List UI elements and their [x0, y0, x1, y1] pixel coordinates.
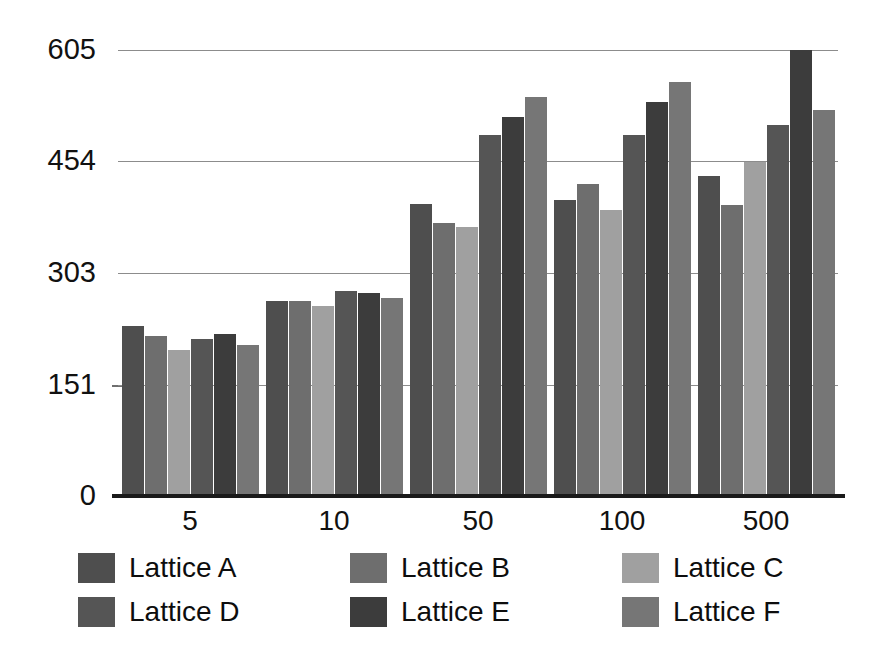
bar [289, 301, 311, 496]
bar [145, 336, 167, 496]
bar [191, 339, 213, 496]
legend-label: Lattice B [401, 553, 510, 583]
bar [554, 200, 576, 496]
x-axis-tick-label: 50 [406, 506, 550, 536]
y-axis-tick-label: 303 [0, 258, 96, 287]
legend-swatch-icon [350, 553, 387, 583]
legend-label: Lattice A [129, 553, 236, 583]
y-axis-tick-label: 151 [0, 370, 96, 399]
bar-group [262, 50, 406, 496]
bar [577, 184, 599, 496]
legend-item[interactable]: Lattice A [78, 553, 350, 583]
y-axis-tick-label: 0 [0, 481, 96, 510]
legend-label: Lattice D [129, 597, 240, 627]
bar-group [694, 50, 838, 496]
bar-group [550, 50, 694, 496]
x-axis-tick-label: 10 [262, 506, 406, 536]
chart-legend: Lattice ALattice BLattice CLattice DLatt… [78, 546, 818, 634]
legend-item[interactable]: Lattice D [78, 597, 350, 627]
bar [122, 326, 144, 496]
bar [790, 50, 812, 496]
bar [698, 176, 720, 496]
bar-group [118, 50, 262, 496]
x-axis-tick-label: 100 [550, 506, 694, 536]
bar [312, 306, 334, 496]
bar [456, 227, 478, 496]
bar-group [406, 50, 550, 496]
legend-swatch-icon [78, 553, 115, 583]
bar [600, 210, 622, 496]
bar [358, 293, 380, 496]
y-axis-tick-label: 454 [0, 146, 96, 175]
plot-area [118, 50, 838, 496]
bar [266, 301, 288, 496]
bar [381, 298, 403, 496]
legend-label: Lattice F [673, 597, 780, 627]
legend-item[interactable]: Lattice B [350, 553, 622, 583]
bar [479, 135, 501, 496]
bar [335, 291, 357, 496]
bar [433, 223, 455, 496]
bar [525, 97, 547, 496]
bar-chart: 0151303454605 51050100500 Lattice ALatti… [0, 0, 878, 660]
bar [237, 345, 259, 496]
bar [721, 205, 743, 496]
legend-item[interactable]: Lattice C [622, 553, 818, 583]
bar [623, 135, 645, 496]
bar [502, 117, 524, 496]
legend-swatch-icon [622, 597, 659, 627]
legend-item[interactable]: Lattice F [622, 597, 818, 627]
bar [410, 204, 432, 496]
bar [767, 125, 789, 496]
y-axis-tick-label: 605 [0, 35, 96, 64]
legend-item[interactable]: Lattice E [350, 597, 622, 627]
legend-swatch-icon [78, 597, 115, 627]
x-axis-tick-label: 5 [118, 506, 262, 536]
bar [813, 110, 835, 496]
legend-swatch-icon [350, 597, 387, 627]
bar [646, 102, 668, 496]
bar [214, 334, 236, 496]
legend-label: Lattice E [401, 597, 510, 627]
x-axis-line [112, 494, 845, 498]
bar [744, 162, 766, 496]
x-axis-tick-label: 500 [694, 506, 838, 536]
bar [168, 350, 190, 496]
legend-label: Lattice C [673, 553, 784, 583]
bar [669, 82, 691, 496]
legend-swatch-icon [622, 553, 659, 583]
